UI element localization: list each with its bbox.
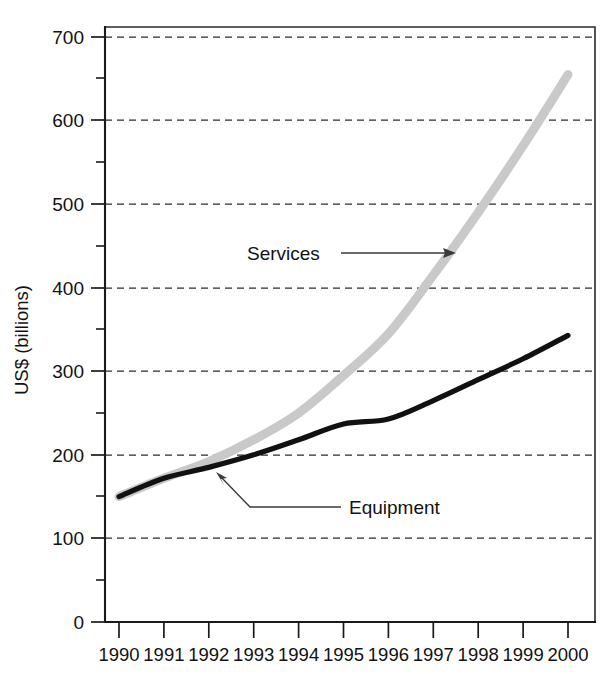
x-tick-label-1992: 1992	[188, 644, 229, 665]
y-axis-minor-ticks	[96, 78, 105, 580]
series-label-equipment: Equipment	[349, 497, 441, 518]
x-tick-label-1993: 1993	[233, 644, 274, 665]
equipment-annotation: Equipment	[216, 472, 441, 518]
x-tick-label-1991: 1991	[143, 644, 184, 665]
series-line-services	[119, 75, 568, 497]
chart-figure: 700 600 500 400 300 200 100 0 US$ (billi…	[0, 0, 601, 674]
y-tick-label-700: 700	[52, 27, 84, 48]
x-tick-label-1995: 1995	[323, 644, 364, 665]
y-axis-tick-labels: 700 600 500 400 300 200 100 0	[52, 27, 84, 633]
y-tick-label-200: 200	[52, 445, 84, 466]
line-chart: 700 600 500 400 300 200 100 0 US$ (billi…	[0, 0, 601, 674]
equipment-leader-line	[221, 477, 341, 507]
series-label-services: Services	[247, 243, 320, 264]
x-tick-label-1996: 1996	[368, 644, 409, 665]
x-tick-label-2000: 2000	[547, 644, 588, 665]
services-annotation: Services	[247, 243, 456, 264]
y-axis-title: US$ (billions)	[11, 285, 32, 395]
x-axis-ticks	[119, 622, 568, 638]
series-line-equipment	[119, 335, 568, 496]
x-tick-label-1990: 1990	[98, 644, 139, 665]
x-axis-tick-labels: 1990 1991 1992 1993 1994 1995 1996 1997 …	[98, 644, 588, 665]
y-tick-label-600: 600	[52, 110, 84, 131]
x-tick-label-1994: 1994	[278, 644, 319, 665]
x-tick-label-1998: 1998	[458, 644, 499, 665]
y-tick-label-100: 100	[52, 528, 84, 549]
plot-frame-top-right	[105, 27, 595, 622]
y-tick-label-400: 400	[52, 278, 84, 299]
y-tick-label-500: 500	[52, 194, 84, 215]
x-tick-label-1999: 1999	[503, 644, 544, 665]
equipment-arrowhead	[216, 472, 227, 485]
y-tick-label-0: 0	[73, 612, 84, 633]
x-tick-label-1997: 1997	[413, 644, 454, 665]
y-tick-label-300: 300	[52, 361, 84, 382]
gridlines	[105, 37, 595, 538]
